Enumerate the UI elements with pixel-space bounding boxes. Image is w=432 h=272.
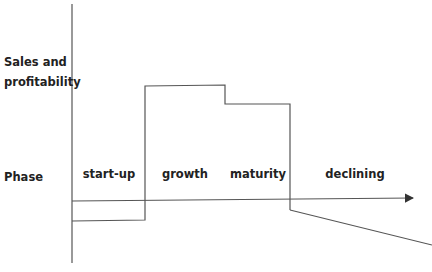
growth-maturity-profile: [145, 85, 290, 201]
startup-phase-bar: [72, 201, 145, 221]
phase-label-startup: start-up: [78, 167, 140, 181]
lifecycle-chart-canvas: [0, 0, 432, 272]
phase-label-declining: declining: [300, 167, 410, 181]
declining-slope: [290, 210, 432, 245]
product-lifecycle-diagram: Sales and profitability Phase start-up g…: [0, 0, 432, 272]
x-axis-arrow: [72, 198, 413, 201]
y-axis-label-line1: Sales and: [4, 52, 67, 72]
y-axis-label-line2: profitability: [4, 72, 81, 92]
phase-row-label: Phase: [4, 167, 43, 187]
phase-label-maturity: maturity: [228, 167, 288, 181]
phase-label-growth: growth: [150, 167, 220, 181]
